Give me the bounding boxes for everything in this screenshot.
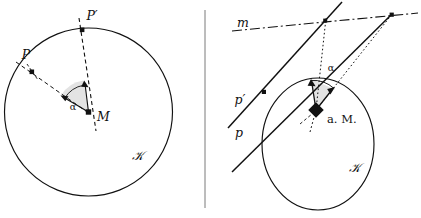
left-point-p-prime-marker: [80, 28, 85, 33]
geometry-figure-canvas: P P′ M α 𝒦: [0, 0, 421, 218]
right-label-p-line: p: [235, 125, 243, 140]
left-point-p-marker: [30, 70, 35, 75]
right-label-circle-k: 𝒦: [349, 160, 365, 175]
right-label-alpha: α: [328, 62, 335, 73]
right-intersection-left-marker: [262, 90, 266, 94]
right-label-m-line: m: [237, 15, 249, 30]
right-panel-group: m p′ p a. M. α 𝒦: [228, 2, 418, 210]
right-dashed-tick-at-center: [300, 114, 312, 124]
left-point-m-marker: [86, 109, 91, 114]
left-label-m: M: [96, 109, 111, 124]
right-label-p-prime-line: p′: [235, 92, 246, 107]
right-intersection-right-top-marker: [390, 13, 394, 17]
left-label-p-prime: P′: [85, 8, 97, 23]
right-line-p: [232, 15, 391, 172]
right-intersection-mid-top-marker: [323, 19, 327, 23]
left-panel-group: P P′ M α 𝒦: [5, 8, 173, 196]
left-label-p: P: [21, 47, 31, 62]
left-label-alpha: α: [70, 101, 77, 112]
left-label-circle-k: 𝒦: [132, 148, 148, 163]
figure-root: P P′ M α 𝒦: [0, 0, 421, 218]
right-label-center-a-m: a. M.: [327, 112, 357, 126]
